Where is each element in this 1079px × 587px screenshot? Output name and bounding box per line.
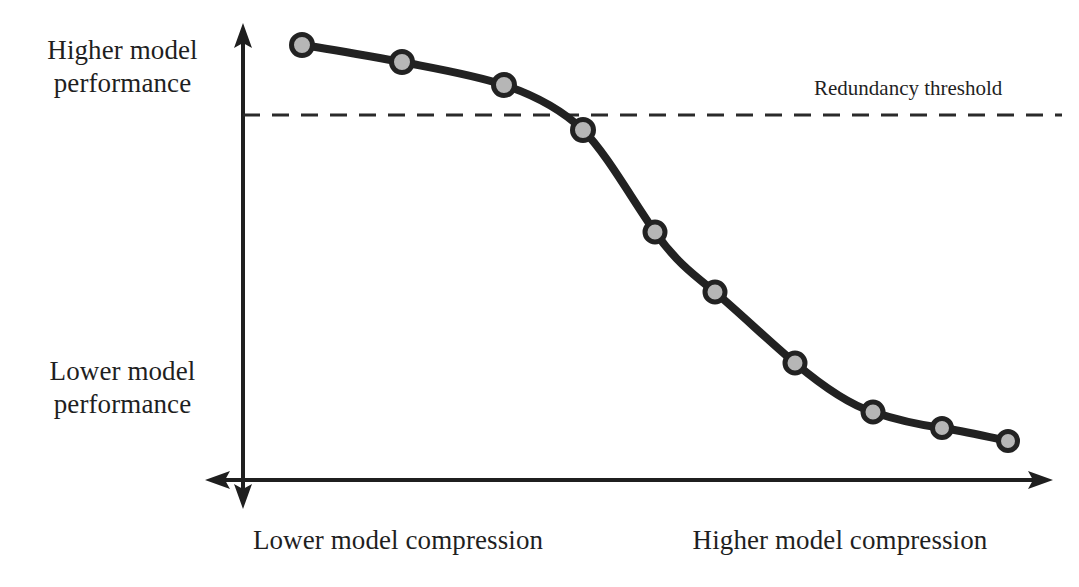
x-axis-low-label: Lower model compression — [198, 524, 598, 557]
data-point-marker — [999, 432, 1018, 451]
data-point-marker — [392, 52, 413, 73]
data-point-marker — [863, 402, 883, 422]
y-axis-low-label: Lower model performance — [10, 355, 235, 421]
chart-figure: Higher model performance Lower model per… — [0, 0, 1079, 587]
data-point-marker — [645, 222, 665, 242]
data-point-marker — [292, 35, 313, 56]
data-point-marker — [494, 75, 515, 96]
x-axis-high-label: Higher model compression — [640, 524, 1040, 557]
data-point-marker — [933, 419, 952, 438]
data-point-marker — [573, 120, 594, 141]
data-point-marker — [785, 353, 805, 373]
redundancy-threshold-label: Redundancy threshold — [814, 76, 1002, 101]
y-axis-high-label: Higher model performance — [10, 34, 235, 100]
data-point-marker — [705, 282, 725, 302]
